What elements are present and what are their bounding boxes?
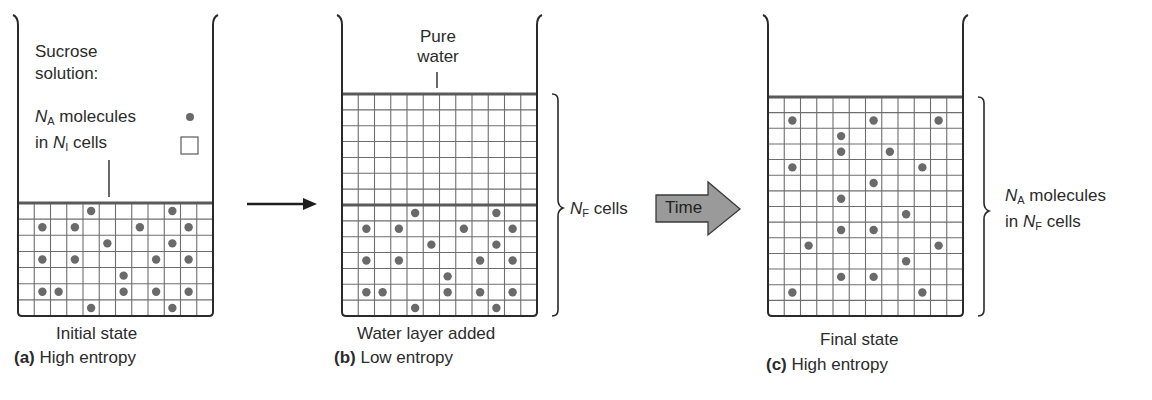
- legend-cells: in NI cells: [35, 133, 107, 157]
- na-molecules-label: NA molecules in NF cells: [1005, 186, 1106, 236]
- molecule-dot-icon: [54, 288, 62, 296]
- molecule-dot-icon: [71, 255, 79, 263]
- molecule-dot-icon: [168, 239, 176, 247]
- molecule-dot-icon: [492, 240, 500, 248]
- arrow-right-icon: [247, 198, 317, 210]
- molecule-dot-icon: [869, 226, 877, 234]
- molecule-dot-icon: [443, 272, 451, 280]
- molecule-dot-icon: [411, 304, 419, 312]
- molecule-dot-icon: [508, 225, 516, 233]
- molecule-dot-icon: [184, 223, 192, 231]
- molecule-dot-icon: [168, 304, 176, 312]
- molecule-dot-icon: [869, 273, 877, 281]
- molecule-dot-icon: [869, 116, 877, 124]
- molecule-dot-icon: [508, 256, 516, 264]
- molecule-dot-icon: [87, 304, 95, 312]
- molecule-dot-icon: [411, 209, 419, 217]
- molecule-dot-icon: [168, 207, 176, 215]
- molecule-dot-icon: [152, 288, 160, 296]
- molecule-dot-icon: [918, 163, 926, 171]
- molecule-dot-icon: [184, 255, 192, 263]
- time-label: Time: [665, 198, 702, 218]
- molecule-dot-icon: [837, 226, 845, 234]
- beaker-c: [763, 15, 968, 316]
- molecule-dot-icon: [837, 132, 845, 140]
- molecule-dot-icon: [362, 225, 370, 233]
- legend-molecules: NA molecules: [35, 107, 136, 131]
- molecule-dot-icon: [119, 271, 127, 279]
- state-label-b: Water layer added: [357, 324, 495, 344]
- molecule-dot-icon: [38, 223, 46, 231]
- molecule-dot-icon: [443, 288, 451, 296]
- brace-b-icon: [552, 94, 563, 316]
- molecule-dot-icon: [902, 257, 910, 265]
- caption-c: (c) High entropy: [766, 355, 888, 375]
- legend-title: Sucrose solution:: [35, 42, 98, 84]
- molecule-dot-icon: [837, 273, 845, 281]
- molecule-dot-icon: [788, 116, 796, 124]
- molecule-dot-icon: [152, 255, 160, 263]
- molecule-dot-icon: [902, 210, 910, 218]
- molecule-dot-icon: [886, 148, 894, 156]
- molecule-dot-icon: [136, 223, 144, 231]
- pure-water-label: Pure water: [410, 27, 466, 67]
- caption-a: (a) High entropy: [14, 348, 136, 368]
- molecule-dot-icon: [918, 288, 926, 296]
- molecule-dot-icon: [362, 256, 370, 264]
- molecule-dot-icon: [476, 288, 484, 296]
- state-label-c: Final state: [820, 330, 898, 350]
- molecule-dot-icon: [804, 241, 812, 249]
- molecule-dot-icon: [934, 241, 942, 249]
- molecule-dot-icon: [395, 256, 403, 264]
- molecule-dot-icon: [460, 225, 468, 233]
- molecule-dot-icon: [869, 179, 877, 187]
- molecule-dot-icon: [492, 209, 500, 217]
- molecule-dot-icon: [934, 116, 942, 124]
- molecule-dot-icon: [184, 288, 192, 296]
- molecule-dot-icon: [362, 288, 370, 296]
- caption-b: (b) Low entropy: [334, 348, 453, 368]
- molecule-dot-icon: [103, 239, 111, 247]
- molecule-dot-icon: [508, 288, 516, 296]
- molecule-dot-icon: [71, 223, 79, 231]
- molecule-dot-icon: [788, 163, 796, 171]
- molecule-dot-icon: [395, 225, 403, 233]
- brace-c-icon: [978, 97, 989, 316]
- nf-cells-label: NF cells: [570, 199, 628, 223]
- molecule-dot-icon: [788, 288, 796, 296]
- molecule-dot-icon: [837, 194, 845, 202]
- molecule-dot-icon: [87, 207, 95, 215]
- molecule-dot-icon: [837, 148, 845, 156]
- molecule-dot-icon: [38, 255, 46, 263]
- state-label-a: Initial state: [56, 324, 137, 344]
- molecule-dot-icon: [38, 288, 46, 296]
- molecule-dot-icon: [427, 240, 435, 248]
- molecule-dot-icon: [119, 288, 127, 296]
- molecule-dot-icon: [492, 304, 500, 312]
- molecule-dot-icon: [378, 288, 386, 296]
- molecule-dot-icon: [476, 256, 484, 264]
